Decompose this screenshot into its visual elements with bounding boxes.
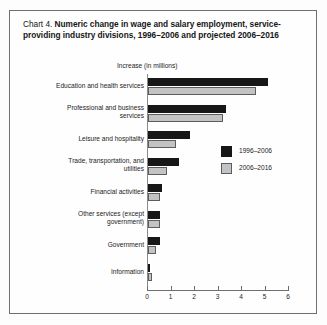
bar-series-a [148, 105, 226, 113]
bar-group [148, 211, 289, 228]
bar-series-a [148, 211, 160, 219]
chart-title: Chart 4. Numeric change in wage and sala… [23, 19, 295, 42]
bar-series-b [148, 220, 160, 228]
bar-series-a [148, 184, 162, 192]
bar-series-b [148, 167, 167, 175]
bar-series-a [148, 78, 268, 86]
bar-series-a [148, 237, 160, 245]
plot-area: 0123456 [147, 74, 288, 290]
bar-series-b [148, 273, 152, 281]
bar-group [148, 78, 289, 95]
category-label: Professional and business services [52, 104, 144, 121]
bar-group [148, 105, 289, 122]
bar-group [148, 184, 289, 201]
x-tick-label: 0 [145, 293, 149, 300]
x-tick-label: 1 [169, 293, 173, 300]
category-label: Education and health services [56, 82, 144, 90]
axis-caption: Increase (in millions) [117, 62, 177, 69]
x-tick-label: 4 [239, 293, 243, 300]
bar-group [148, 131, 289, 148]
bar-series-a [148, 158, 179, 166]
category-label: Trade, transportation, and utilities [52, 157, 144, 174]
bar-series-a [148, 131, 190, 139]
legend-label-1996-2006: 1996–2006 [239, 147, 272, 154]
category-label: Financial activities [90, 188, 144, 196]
bar-series-b [148, 140, 176, 148]
category-label: Other services (except government) [52, 210, 144, 227]
bar-series-b [148, 193, 160, 201]
category-label: Information [111, 268, 144, 276]
bar-group [148, 264, 289, 281]
x-tick-mark [171, 286, 172, 291]
bar-series-a [148, 264, 150, 272]
x-tick-label: 3 [216, 293, 220, 300]
x-tick-mark [288, 286, 289, 291]
x-tick-label: 6 [286, 293, 290, 300]
bar-series-b [148, 114, 223, 122]
x-tick-mark [147, 286, 148, 291]
x-tick-mark [194, 286, 195, 291]
legend-swatch-icon-2006-2016 [221, 163, 232, 174]
chart-title-prefix: Chart 4. [23, 19, 55, 29]
chart-title-text: Numeric change in wage and salary employ… [23, 19, 281, 40]
x-tick-mark [265, 286, 266, 291]
x-tick-label: 5 [263, 293, 267, 300]
x-tick-mark [241, 286, 242, 291]
legend-swatch-icon-1996-2006 [221, 146, 232, 157]
category-label: Government [108, 241, 144, 249]
category-label: Leisure and hospitality [78, 135, 144, 143]
chart-figure: Chart 4. Numeric change in wage and sala… [0, 0, 327, 325]
bar-group [148, 237, 289, 254]
bar-series-b [148, 87, 256, 95]
x-tick-label: 2 [192, 293, 196, 300]
bar-series-b [148, 246, 156, 254]
legend-label-2006-2016: 2006–2016 [239, 164, 272, 171]
x-tick-mark [218, 286, 219, 291]
